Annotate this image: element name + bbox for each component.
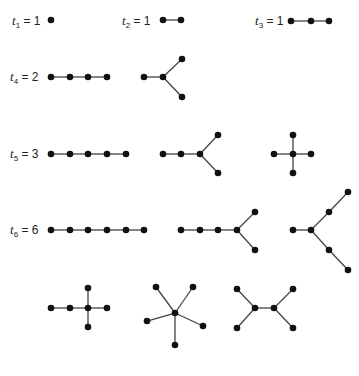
- tree-edge: [329, 192, 348, 212]
- label-t6: t6 = 6: [10, 223, 38, 242]
- tree-node: [200, 323, 207, 330]
- tree-node: [215, 227, 222, 234]
- tree-t3-path: [288, 18, 333, 25]
- tree-edge: [311, 212, 329, 230]
- tree-t2-edge: [160, 17, 185, 24]
- tree-edge: [237, 230, 255, 250]
- tree-edge: [156, 287, 175, 313]
- tree-edge: [311, 230, 329, 250]
- tree-node: [160, 151, 167, 158]
- tree-node: [290, 170, 297, 177]
- tree-node: [252, 247, 259, 254]
- tree-node: [326, 247, 333, 254]
- tree-t1-single: [48, 17, 55, 24]
- tree-edge: [274, 308, 293, 328]
- tree-edge: [200, 154, 218, 173]
- tree-node: [252, 209, 259, 216]
- tree-edge: [175, 287, 193, 313]
- tree-node: [197, 227, 204, 234]
- tree-node: [234, 227, 241, 234]
- tree-node: [345, 189, 352, 196]
- tree-t6-cross: [48, 285, 111, 331]
- tree-node: [308, 151, 315, 158]
- tree-node: [160, 74, 167, 81]
- tree-edge: [237, 289, 255, 308]
- tree-t5-path: [48, 151, 130, 158]
- tree-t6-long-fork: [178, 209, 259, 254]
- tree-node: [85, 285, 92, 292]
- tree-node: [48, 305, 55, 312]
- tree-node: [290, 227, 297, 234]
- tree-node: [215, 132, 222, 139]
- tree-t4-star: [141, 56, 186, 101]
- tree-node: [104, 227, 111, 234]
- tree-t5-fork: [160, 132, 222, 177]
- tree-node: [345, 267, 352, 274]
- tree-node: [290, 132, 297, 139]
- tree-t6-double-fork: [234, 286, 297, 332]
- tree-node: [271, 151, 278, 158]
- tree-node: [308, 227, 315, 234]
- tree-node: [85, 227, 92, 234]
- tree-node: [172, 310, 179, 317]
- tree-node: [85, 74, 92, 81]
- tree-node: [308, 18, 315, 25]
- tree-node: [141, 74, 148, 81]
- tree-node: [67, 74, 74, 81]
- tree-node: [179, 56, 186, 63]
- tree-node: [67, 305, 74, 312]
- tree-node: [85, 151, 92, 158]
- label-t1: t1 = 1: [12, 14, 40, 33]
- tree-node: [144, 318, 151, 325]
- tree-node: [85, 305, 92, 312]
- tree-edge: [147, 313, 175, 321]
- tree-t6-star: [144, 284, 207, 349]
- tree-t4-path: [48, 74, 111, 81]
- tree-node: [85, 324, 92, 331]
- label-t5: t5 = 3: [10, 147, 38, 166]
- tree-node: [326, 18, 333, 25]
- tree-node: [104, 151, 111, 158]
- label-t2: t2 = 1: [122, 14, 150, 33]
- tree-edge: [163, 59, 182, 77]
- tree-node: [48, 17, 55, 24]
- tree-node: [252, 305, 259, 312]
- tree-node: [288, 18, 295, 25]
- tree-edge: [175, 313, 203, 326]
- tree-node: [290, 325, 297, 332]
- tree-node: [104, 74, 111, 81]
- tree-node: [123, 151, 130, 158]
- label-t4: t4 = 2: [10, 70, 38, 89]
- tree-node: [123, 227, 130, 234]
- tree-node: [326, 209, 333, 216]
- tree-node: [172, 342, 179, 349]
- tree-t6-path: [48, 227, 148, 234]
- tree-node: [48, 74, 55, 81]
- tree-node: [104, 305, 111, 312]
- tree-edge: [237, 212, 255, 230]
- tree-edge: [329, 250, 348, 270]
- tree-node: [290, 286, 297, 293]
- label-t3: t3 = 1: [255, 14, 283, 33]
- tree-node: [160, 17, 167, 24]
- tree-diagram-canvas: [0, 0, 359, 376]
- tree-edge: [163, 77, 182, 97]
- tree-edge: [200, 135, 218, 154]
- tree-node: [67, 151, 74, 158]
- tree-edge: [274, 289, 293, 308]
- tree-t5-star: [271, 132, 315, 177]
- tree-edge: [237, 308, 255, 328]
- tree-node: [153, 284, 160, 291]
- tree-node: [179, 94, 186, 101]
- tree-node: [234, 286, 241, 293]
- tree-node: [141, 227, 148, 234]
- tree-node: [178, 151, 185, 158]
- tree-node: [67, 227, 74, 234]
- tree-node: [48, 151, 55, 158]
- tree-node: [290, 151, 297, 158]
- tree-node: [215, 170, 222, 177]
- tree-node: [190, 284, 197, 291]
- tree-node: [197, 151, 204, 158]
- tree-t6-spider: [290, 189, 352, 274]
- tree-node: [48, 227, 55, 234]
